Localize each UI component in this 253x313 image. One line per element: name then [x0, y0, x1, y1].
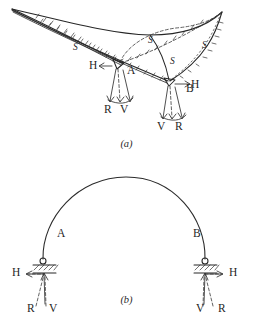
- panel-a-label-point-a: A: [127, 65, 135, 77]
- b-reaction-dashed: [170, 86, 172, 118]
- right-member-dashed: [169, 13, 221, 81]
- a-reaction-dashed: [118, 69, 120, 101]
- panel-a-label-s-upper-middle: S: [148, 36, 153, 46]
- panel-a-label-h-right: H: [191, 79, 199, 91]
- panel-a-label-s-left: S: [73, 43, 78, 53]
- right-member: [170, 12, 222, 81]
- ground-hatch-b: [195, 265, 219, 270]
- figure-root: S S S S A B H R V H V R (a): [0, 0, 253, 313]
- left-upper-chord: [12, 9, 122, 63]
- panel-a-label-r-right: R: [175, 121, 183, 133]
- b-reaction-r-arrow: [175, 87, 182, 117]
- panel-a-caption: (a): [0, 138, 253, 149]
- panel-a-label-s-lower-middle: S: [170, 57, 175, 67]
- upper-chord-curve: [12, 9, 222, 35]
- panel-b-label-h-right: H: [229, 267, 237, 279]
- a-reaction-r-arrow: [110, 69, 116, 101]
- panel-b-drawing: [0, 158, 253, 313]
- panel-b-label-point-b: B: [193, 228, 201, 240]
- a-arrowhead-dashed: [117, 97, 124, 102]
- b-arrowhead-dashed: [169, 114, 176, 119]
- b-reaction-v-arrow: [163, 86, 168, 118]
- panel-a-label-h-left: H: [89, 60, 97, 72]
- panel-a-label-v-right: V: [157, 121, 165, 133]
- dashed-upper-arc: [120, 12, 222, 62]
- panel-b-label-h-left: H: [12, 267, 20, 279]
- ground-hatch-a: [34, 265, 58, 270]
- hatch-lower-middle: [128, 20, 203, 61]
- panel-a-label-s-right: S: [202, 41, 207, 51]
- panel-b-caption: (b): [0, 294, 253, 305]
- arch-curve: [43, 177, 205, 259]
- panel-a-label-r-left: R: [104, 104, 112, 116]
- panel-a-label-v-left: V: [120, 104, 128, 116]
- panel-b-label-point-a: A: [57, 228, 65, 240]
